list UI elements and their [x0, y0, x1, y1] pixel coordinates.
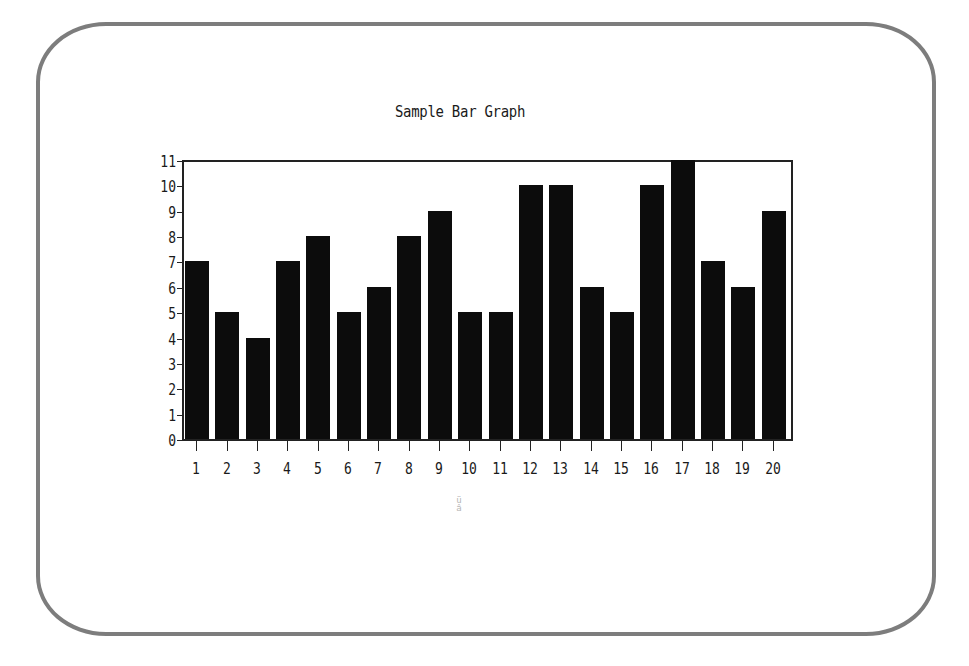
- x-tick-label: 10: [454, 460, 484, 476]
- chart-title: Sample Bar Graph: [340, 102, 580, 120]
- bar-5: [306, 236, 330, 439]
- bar-6: [337, 312, 361, 439]
- x-tick-label: 5: [303, 460, 333, 476]
- x-tick-label: 1: [181, 460, 211, 476]
- x-tick-mark: [621, 441, 622, 451]
- x-tick-mark: [378, 441, 379, 451]
- bar-13: [549, 185, 573, 439]
- y-tick-label: 10: [160, 179, 176, 195]
- x-tick-label: 11: [485, 460, 515, 476]
- y-tick-mark: [177, 212, 182, 213]
- x-tick-mark: [439, 441, 440, 451]
- x-tick-mark: [651, 441, 652, 451]
- y-tick-label: 0: [160, 433, 176, 449]
- x-tick-label: 18: [697, 460, 727, 476]
- x-tick-mark: [409, 441, 410, 451]
- x-tick-label: 15: [606, 460, 636, 476]
- x-tick-mark: [591, 441, 592, 451]
- x-tick-mark: [682, 441, 683, 451]
- x-tick-mark: [318, 441, 319, 451]
- x-tick-label: 12: [515, 460, 545, 476]
- x-tick-label: 20: [758, 460, 788, 476]
- x-tick-label: 13: [545, 460, 575, 476]
- bar-7: [367, 287, 391, 439]
- bar-11: [489, 312, 513, 439]
- y-tick-mark: [177, 364, 182, 365]
- bar-8: [397, 236, 421, 439]
- x-tick-label: 8: [394, 460, 424, 476]
- stray-mark: ü â: [455, 496, 463, 512]
- y-tick-label: 5: [160, 306, 176, 322]
- bar-12: [519, 185, 543, 439]
- bar-17: [671, 160, 695, 439]
- bar-3: [246, 338, 270, 439]
- y-tick-mark: [177, 237, 182, 238]
- x-tick-label: 16: [636, 460, 666, 476]
- x-tick-mark: [530, 441, 531, 451]
- y-tick-label: 2: [160, 382, 176, 398]
- y-tick-mark: [177, 186, 182, 187]
- x-tick-mark: [348, 441, 349, 451]
- x-tick-mark: [712, 441, 713, 451]
- x-tick-label: 7: [363, 460, 393, 476]
- bar-16: [640, 185, 664, 439]
- x-tick-mark: [287, 441, 288, 451]
- y-tick-label: 11: [160, 154, 176, 170]
- y-tick-label: 3: [160, 357, 176, 373]
- x-tick-label: 3: [242, 460, 272, 476]
- x-tick-label: 14: [576, 460, 606, 476]
- y-tick-label: 9: [160, 205, 176, 221]
- plot-area: [182, 160, 793, 441]
- bar-10: [458, 312, 482, 439]
- y-tick-label: 4: [160, 332, 176, 348]
- y-tick-mark: [177, 339, 182, 340]
- y-tick-label: 6: [160, 281, 176, 297]
- bar-2: [215, 312, 239, 439]
- x-tick-mark: [469, 441, 470, 451]
- x-tick-label: 9: [424, 460, 454, 476]
- x-tick-mark: [500, 441, 501, 451]
- stray-mark-glyph-bottom: â: [456, 503, 461, 513]
- bar-20: [762, 211, 786, 439]
- x-tick-label: 6: [333, 460, 363, 476]
- x-tick-mark: [742, 441, 743, 451]
- x-tick-mark: [196, 441, 197, 451]
- x-tick-label: 2: [212, 460, 242, 476]
- x-tick-mark: [227, 441, 228, 451]
- bar-14: [580, 287, 604, 439]
- bar-9: [428, 211, 452, 439]
- bar-4: [276, 261, 300, 439]
- y-tick-mark: [177, 288, 182, 289]
- x-tick-mark: [773, 441, 774, 451]
- y-tick-label: 1: [160, 408, 176, 424]
- bar-18: [701, 261, 725, 439]
- x-tick-mark: [560, 441, 561, 451]
- y-tick-mark: [177, 313, 182, 314]
- x-tick-label: 19: [727, 460, 757, 476]
- y-tick-mark: [177, 389, 182, 390]
- x-tick-label: 4: [272, 460, 302, 476]
- x-tick-label: 17: [667, 460, 697, 476]
- bar-19: [731, 287, 755, 439]
- y-tick-mark: [177, 440, 182, 441]
- x-tick-mark: [257, 441, 258, 451]
- y-tick-label: 8: [160, 230, 176, 246]
- bar-15: [610, 312, 634, 439]
- y-tick-mark: [177, 161, 182, 162]
- bar-1: [185, 261, 209, 439]
- y-tick-mark: [177, 262, 182, 263]
- y-tick-mark: [177, 415, 182, 416]
- y-tick-label: 7: [160, 255, 176, 271]
